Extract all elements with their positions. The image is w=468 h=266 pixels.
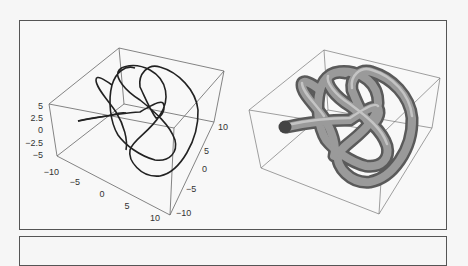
x-tick: 10: [150, 213, 160, 223]
z-tick: −5: [33, 150, 43, 160]
x-tick: 0: [99, 189, 104, 199]
y-tick: 0: [202, 164, 207, 174]
z-tick: −2.5: [25, 138, 43, 148]
tube-knot: [279, 69, 413, 182]
z-tick: 5: [38, 101, 43, 111]
y-tick: 10: [218, 122, 228, 132]
y-tick: 5: [204, 146, 209, 156]
z-tick: 2.5: [30, 113, 43, 123]
left-bounding-box: [49, 48, 224, 215]
y-tick: −10: [176, 208, 191, 218]
z-axis-ticks: 5 2.5 0 −2.5 −5: [25, 101, 43, 160]
z-tick: 0: [38, 125, 43, 135]
x-tick: −5: [70, 177, 80, 187]
x-tick: −10: [44, 167, 59, 177]
y-axis-ticks: 10 5 0 −5 −10: [176, 122, 228, 218]
x-tick: 5: [124, 201, 129, 211]
y-tick: −5: [186, 184, 196, 194]
x-axis-ticks: −10 −5 0 5 10: [44, 167, 160, 223]
